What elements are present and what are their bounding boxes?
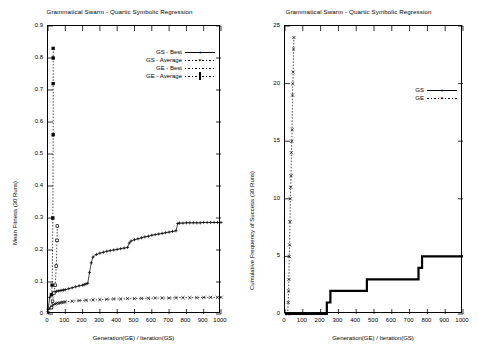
chart-title-left: Grammatical Swarm - Quartic Symbolic Reg… [0, 8, 239, 15]
legend-label-gs-average: GS - Average [146, 57, 182, 63]
legend-item-ge: GE × [389, 94, 457, 102]
x-tick-label: 100 [59, 317, 69, 323]
y-tick-label: 0.1 [17, 278, 43, 284]
x-tick-label: 400 [111, 317, 121, 323]
y-axis-label-right: Cumulative Frequency of Success (30 Runs… [249, 171, 255, 290]
x-tick-label: 700 [163, 317, 173, 323]
legend-key-gs: + [427, 86, 457, 94]
legend-key-gs-average: × [185, 56, 215, 64]
x-tick-label: 300 [94, 317, 104, 323]
legend-key-ge-average [185, 72, 215, 80]
y-tick-label: 0 [254, 310, 280, 316]
y-tick-label: 20 [254, 80, 280, 86]
chart-title-right: Grammatical Swarm - Quartic Symbolic Reg… [239, 8, 478, 15]
x-tick-label: 800 [180, 317, 190, 323]
legend-label-ge: GE [415, 95, 424, 101]
chart-panel-left: Grammatical Swarm - Quartic Symbolic Reg… [0, 0, 239, 356]
legend-item-ge-average: GE - Average [95, 72, 215, 80]
x-tick-label: 300 [332, 317, 342, 323]
x-tick-label: 700 [404, 317, 414, 323]
x-tick-label: 900 [439, 317, 449, 323]
x-tick-label: 600 [386, 317, 396, 323]
x-tick-label: 0 [45, 317, 48, 323]
y-tick-label: 0.6 [17, 118, 43, 124]
x-tick-label: 1000 [213, 317, 226, 323]
legend-item-ge-best: GE - Best [95, 64, 215, 72]
x-tick-label: 0 [282, 317, 285, 323]
legend-key-ge: × [427, 94, 457, 102]
x-tick-label: 200 [315, 317, 325, 323]
legend-label-ge-best: GE - Best [156, 65, 182, 71]
legend-left: GS - Best + GS - Average × GE - Best [95, 48, 215, 80]
chart-panel-right: Grammatical Swarm - Quartic Symbolic Reg… [239, 0, 478, 356]
y-tick-label: 15 [254, 137, 280, 143]
y-tick-label: 5 [254, 252, 280, 258]
x-axis-label-left: Generation(GE) / Iteration(GS) [47, 335, 220, 341]
x-tick-label: 400 [350, 317, 360, 323]
y-tick-label: 0.5 [17, 150, 43, 156]
y-tick-label: 0.7 [17, 86, 43, 92]
x-tick-label: 900 [198, 317, 208, 323]
x-axis-label-right: Generation(GE) / Iteration(GS) [284, 335, 462, 341]
legend-label-ge-average: GE - Average [146, 73, 182, 79]
legend-key-gs-best: + [185, 48, 215, 56]
y-tick-label: 0 [17, 310, 43, 316]
plot-area-right [284, 25, 462, 313]
x-tick-label: 800 [421, 317, 431, 323]
y-tick-label: 0.4 [17, 182, 43, 188]
legend-item-gs-average: GS - Average × [95, 56, 215, 64]
x-tick-label: 600 [146, 317, 156, 323]
y-tick-label: 25 [254, 22, 280, 28]
y-tick-label: 0.8 [17, 54, 43, 60]
y-tick-label: 10 [254, 195, 280, 201]
x-tick-label: 500 [368, 317, 378, 323]
legend-label-gs-best: GS - Best [156, 49, 182, 55]
y-tick-label: 0.9 [17, 22, 43, 28]
legend-key-ge-best [185, 64, 215, 72]
y-axis-label-left: Mean Fitness (30 Runs) [12, 181, 18, 245]
legend-item-gs-best: GS - Best + [95, 48, 215, 56]
x-tick-label: 500 [128, 317, 138, 323]
x-tick-label: 100 [297, 317, 307, 323]
y-tick-label: 0.2 [17, 246, 43, 252]
legend-item-gs: GS + [389, 86, 457, 94]
legend-label-gs: GS [415, 87, 424, 93]
x-tick-label: 200 [77, 317, 87, 323]
legend-right: GS + GE × [389, 86, 457, 102]
x-tick-label: 1000 [455, 317, 468, 323]
plot-lines-right [285, 26, 463, 314]
y-tick-label: 0.3 [17, 214, 43, 220]
figure-container: Grammatical Swarm - Quartic Symbolic Reg… [0, 0, 478, 356]
